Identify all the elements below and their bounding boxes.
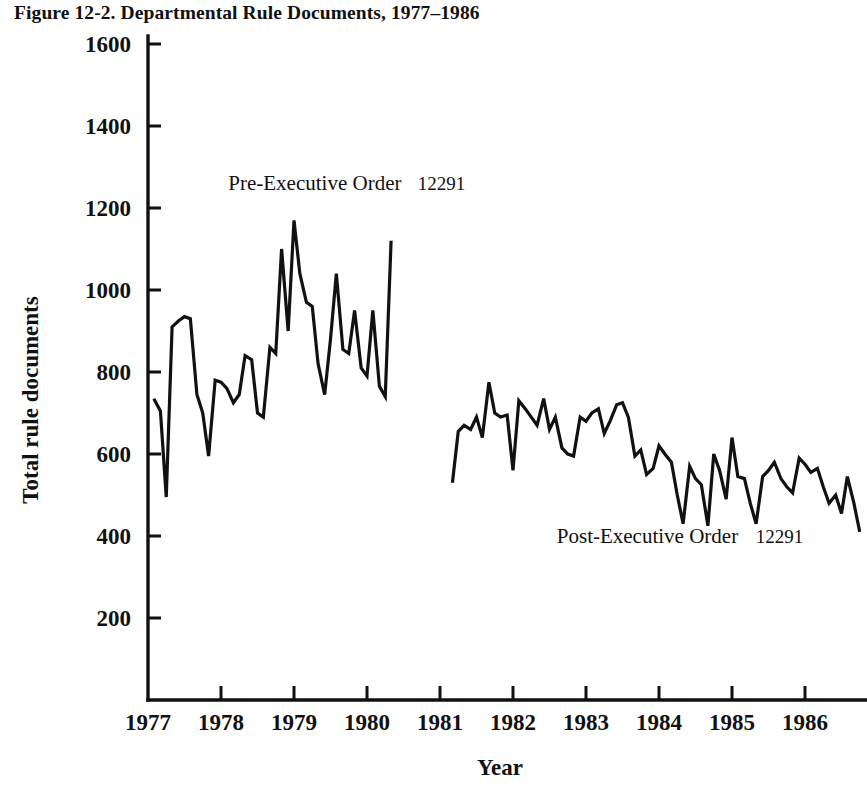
- x-tick-label: 1985: [709, 710, 755, 735]
- annotation-pre-label: Pre-Executive Order: [228, 171, 401, 195]
- annotation-pre-number: 12291: [418, 173, 466, 194]
- x-tick-label: 1983: [563, 710, 609, 735]
- y-axis-title: Total rule documents: [18, 296, 43, 503]
- y-tick-label: 800: [97, 360, 132, 385]
- annotation-post-executive-order: Post-Executive Order 12291: [557, 524, 804, 548]
- annotation-post-number: 12291: [756, 526, 804, 547]
- x-tick-label: 1986: [782, 710, 828, 735]
- y-tick-label: 200: [97, 606, 132, 631]
- x-axis-tick-labels: 1977197819791980198119821983198419851986: [125, 710, 828, 735]
- x-tick-label: 1981: [417, 710, 463, 735]
- y-tick-label: 400: [97, 524, 132, 549]
- series-line-post-executive-order: [452, 382, 859, 532]
- axes-group: [148, 36, 866, 700]
- x-axis-ticks: [221, 686, 805, 700]
- x-tick-label: 1977: [125, 710, 171, 735]
- series-line-pre-executive-order: [154, 220, 391, 497]
- y-tick-label: 1000: [85, 278, 131, 303]
- figure-container: Figure 12-2. Departmental Rule Documents…: [0, 0, 867, 788]
- chart-canvas: 2004006008001000120014001600 19771978197…: [0, 0, 867, 788]
- x-tick-label: 1978: [198, 710, 244, 735]
- y-tick-label: 600: [97, 442, 132, 467]
- y-axis-ticks: [148, 44, 161, 618]
- x-tick-label: 1984: [636, 710, 683, 735]
- y-tick-label: 1200: [85, 196, 131, 221]
- x-tick-label: 1979: [271, 710, 317, 735]
- x-tick-label: 1982: [490, 710, 536, 735]
- annotation-post-label: Post-Executive Order: [557, 524, 738, 548]
- x-tick-label: 1980: [344, 710, 390, 735]
- y-tick-label: 1400: [85, 114, 131, 139]
- x-axis-title: Year: [477, 755, 523, 780]
- annotation-pre-executive-order: Pre-Executive Order 12291: [228, 171, 465, 195]
- y-axis-tick-labels: 2004006008001000120014001600: [85, 32, 131, 631]
- y-tick-label: 1600: [85, 32, 131, 57]
